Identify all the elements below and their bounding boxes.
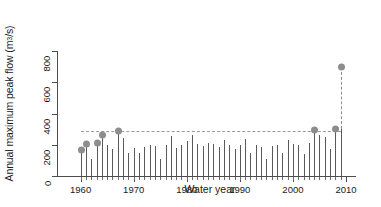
y-tick-label: 600 bbox=[42, 87, 52, 103]
bar bbox=[304, 154, 305, 176]
y-tick bbox=[52, 176, 58, 177]
x-minor-tick bbox=[335, 177, 336, 180]
x-minor-tick bbox=[150, 177, 151, 180]
x-minor-tick bbox=[309, 177, 310, 180]
bar bbox=[235, 149, 236, 176]
x-minor-tick bbox=[171, 177, 172, 180]
x-minor-tick bbox=[240, 177, 241, 180]
bar bbox=[81, 150, 82, 176]
x-minor-tick bbox=[245, 177, 246, 180]
x-minor-tick bbox=[139, 177, 140, 180]
bar bbox=[272, 146, 273, 176]
x-minor-tick bbox=[235, 177, 236, 180]
x-minor-tick bbox=[203, 177, 204, 180]
record-marker bbox=[115, 128, 122, 135]
x-minor-tick bbox=[304, 177, 305, 180]
bar bbox=[171, 136, 172, 176]
record-marker bbox=[99, 132, 106, 139]
bar bbox=[330, 149, 331, 176]
bar bbox=[277, 145, 278, 176]
y-tick bbox=[52, 145, 58, 146]
bar bbox=[293, 144, 294, 176]
bar bbox=[118, 131, 119, 176]
x-minor-tick bbox=[112, 177, 113, 180]
bar bbox=[319, 135, 320, 176]
bar bbox=[107, 145, 108, 176]
x-minor-tick bbox=[229, 177, 230, 180]
x-minor-tick bbox=[250, 177, 251, 180]
bar bbox=[144, 147, 145, 176]
x-minor-tick bbox=[314, 177, 315, 180]
bar bbox=[298, 145, 299, 176]
x-tick-label: 2010 bbox=[335, 184, 356, 195]
bar bbox=[197, 144, 198, 176]
record-extension-dashed-line bbox=[341, 67, 342, 130]
bar bbox=[266, 159, 267, 177]
x-minor-tick bbox=[192, 177, 193, 180]
bar bbox=[219, 147, 220, 176]
x-minor-tick bbox=[341, 177, 342, 180]
bar bbox=[176, 148, 177, 176]
record-marker bbox=[78, 146, 85, 153]
y-tick-label: 200 bbox=[42, 150, 52, 166]
bar bbox=[102, 135, 103, 176]
x-minor-tick bbox=[256, 177, 257, 180]
x-minor-tick bbox=[261, 177, 262, 180]
bar bbox=[187, 141, 188, 176]
record-marker bbox=[94, 139, 101, 146]
bar bbox=[203, 146, 204, 176]
record-marker bbox=[311, 127, 318, 134]
x-minor-tick bbox=[134, 177, 135, 180]
x-minor-tick bbox=[187, 177, 188, 180]
y-axis-title-exponent: 3 bbox=[6, 37, 13, 41]
x-minor-tick bbox=[123, 177, 124, 180]
bar bbox=[155, 146, 156, 176]
bar bbox=[123, 138, 124, 176]
x-minor-tick bbox=[160, 177, 161, 180]
x-minor-tick bbox=[282, 177, 283, 180]
x-minor-tick bbox=[272, 177, 273, 180]
bar bbox=[261, 147, 262, 176]
y-axis-title-tail: /s) bbox=[3, 25, 15, 36]
bar bbox=[309, 143, 310, 176]
x-minor-tick bbox=[97, 177, 98, 180]
x-minor-tick bbox=[102, 177, 103, 180]
x-minor-tick bbox=[298, 177, 299, 180]
x-minor-tick bbox=[81, 177, 82, 180]
bar bbox=[192, 135, 193, 176]
x-minor-tick bbox=[197, 177, 198, 180]
x-tick-label: 1980 bbox=[176, 184, 197, 195]
bar bbox=[208, 143, 209, 176]
bar bbox=[256, 145, 257, 176]
bar bbox=[335, 129, 336, 176]
record-marker bbox=[83, 140, 90, 147]
bar bbox=[150, 145, 151, 176]
x-minor-tick bbox=[86, 177, 87, 180]
bar bbox=[250, 153, 251, 176]
x-tick-label: 1960 bbox=[70, 184, 91, 195]
x-minor-tick bbox=[144, 177, 145, 180]
bar bbox=[245, 139, 246, 176]
bar bbox=[314, 130, 315, 176]
bar bbox=[213, 144, 214, 176]
y-axis-title: Annual maximum peak flow (m3/s) bbox=[0, 0, 18, 207]
bar bbox=[86, 144, 87, 176]
x-minor-tick bbox=[277, 177, 278, 180]
chart-figure: Annual maximum peak flow (m3/s) Water ye… bbox=[0, 0, 381, 207]
bar bbox=[325, 137, 326, 176]
x-minor-tick bbox=[319, 177, 320, 180]
x-minor-tick bbox=[325, 177, 326, 180]
y-tick-label: 400 bbox=[42, 118, 52, 134]
x-minor-tick bbox=[330, 177, 331, 180]
bar bbox=[91, 159, 92, 177]
x-minor-tick bbox=[181, 177, 182, 180]
x-minor-tick bbox=[118, 177, 119, 180]
bar bbox=[134, 148, 135, 176]
bar bbox=[282, 153, 283, 176]
plot-area: 0200400600800 196019701980199020002010 bbox=[68, 20, 356, 160]
x-minor-tick bbox=[213, 177, 214, 180]
x-minor-tick bbox=[288, 177, 289, 180]
x-minor-tick bbox=[224, 177, 225, 180]
x-minor-tick bbox=[128, 177, 129, 180]
x-minor-tick bbox=[219, 177, 220, 180]
